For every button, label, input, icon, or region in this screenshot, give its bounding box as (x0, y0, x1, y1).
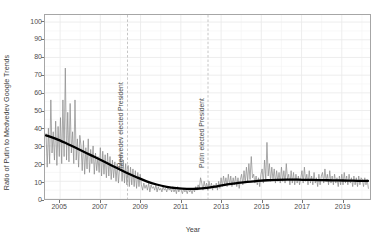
y-tick-mark (41, 75, 44, 76)
y-tick-mark (41, 182, 44, 183)
y-tick-mark (41, 200, 44, 201)
x-tick-label: 2015 (247, 203, 277, 210)
grid-major-lines (45, 15, 370, 199)
y-tick-mark (41, 93, 44, 94)
y-tick-label: 20 (16, 161, 42, 168)
y-axis-title-text: Ratio of Putin to Medvedev Google Trends (3, 55, 12, 190)
raw-series-line (46, 68, 368, 194)
y-tick-mark (41, 57, 44, 58)
y-tick-mark (41, 128, 44, 129)
x-tick-label: 2009 (125, 203, 155, 210)
y-tick-label: 80 (16, 53, 42, 60)
y-tick-label: 40 (16, 125, 42, 132)
y-tick-label: 0 (16, 196, 42, 203)
x-tick-mark (140, 200, 141, 203)
y-tick-label: 30 (16, 143, 42, 150)
grid-minor-lines (45, 15, 370, 199)
y-tick-label: 60 (16, 89, 42, 96)
x-tick-label: 2019 (328, 203, 358, 210)
y-tick-mark (41, 111, 44, 112)
y-axis-title: Ratio of Putin to Medvedev Google Trends (0, 0, 14, 245)
x-tick-label: 2011 (166, 203, 196, 210)
annotation-label-medvedev: Medvedev elected President (117, 82, 124, 168)
y-tick-label: 50 (16, 107, 42, 114)
y-axis-ticks: 0102030405060708090100 (14, 0, 42, 245)
x-tick-mark (100, 200, 101, 203)
y-tick-mark (41, 164, 44, 165)
y-tick-mark (41, 146, 44, 147)
x-tick-mark (302, 200, 303, 203)
x-tick-mark (181, 200, 182, 203)
y-tick-mark (41, 21, 44, 22)
x-tick-label: 2013 (206, 203, 236, 210)
y-tick-label: 10 (16, 179, 42, 186)
annotation-lines (128, 15, 208, 199)
x-tick-mark (221, 200, 222, 203)
x-tick-mark (343, 200, 344, 203)
x-tick-mark (59, 200, 60, 203)
x-axis-title: Year (0, 225, 386, 234)
plot-panel: Medvedev elected PresidentPutin elected … (44, 14, 371, 200)
y-tick-label: 90 (16, 35, 42, 42)
y-tick-label: 100 (16, 18, 42, 25)
annotation-label-putin: Putin elected President (198, 98, 205, 168)
x-tick-label: 2017 (287, 203, 317, 210)
x-tick-mark (262, 200, 263, 203)
x-tick-label: 2007 (85, 203, 115, 210)
y-tick-label: 70 (16, 71, 42, 78)
chart-figure: Ratio of Putin to Medvedev Google Trends… (0, 0, 386, 245)
y-tick-mark (41, 39, 44, 40)
plot-svg (45, 15, 370, 199)
x-tick-label: 2005 (44, 203, 74, 210)
